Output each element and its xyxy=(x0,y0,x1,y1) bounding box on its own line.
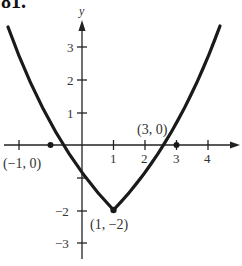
y-axis-arrow-icon xyxy=(79,20,86,31)
y-tick-label-3: 3 xyxy=(67,40,74,55)
y-tick-label-2: 2 xyxy=(67,73,74,88)
y-tick-label-neg3: −3 xyxy=(55,236,69,251)
y-axis-label: y xyxy=(78,4,85,18)
label-point-left: (−1, 0) xyxy=(3,156,42,172)
label-point-right: (3, 0) xyxy=(137,122,168,138)
point-x-intercept-right xyxy=(174,142,180,148)
y-axis: y 3 2 1 −2 −3 xyxy=(55,4,87,259)
label-point-vertex: (1, −2) xyxy=(90,217,129,233)
x-tick-label-2: 2 xyxy=(141,151,148,166)
y-tick-label-1: 1 xyxy=(67,106,74,121)
x-tick-label-1: 1 xyxy=(110,151,117,166)
x-tick-label-4: 4 xyxy=(204,151,211,166)
x-tick-label-3: 3 xyxy=(173,151,180,166)
point-vertex xyxy=(110,207,116,213)
x-axis-arrow-icon xyxy=(230,142,240,149)
y-tick-label-neg2: −2 xyxy=(55,204,69,219)
point-x-intercept-left xyxy=(48,142,54,148)
parabola-graph: 81. 1 2 3 4 y 3 2 1 −2 −3 (−1 xyxy=(0,0,242,266)
parabola-curve xyxy=(8,26,220,210)
problem-number: 81. xyxy=(1,0,26,12)
